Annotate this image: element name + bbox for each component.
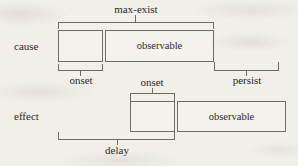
bracket-max-exist	[58, 22, 214, 29]
row-label-cause: cause	[14, 40, 38, 52]
cause-effect-timeline-diagram: max-exist cause observable onset persist…	[0, 0, 298, 166]
bar-effect-observable-label: observable	[178, 111, 285, 123]
bracket-persist	[214, 62, 279, 71]
bar-cause-observable-label: observable	[106, 40, 213, 52]
bracket-effect-onset	[130, 93, 175, 101]
bracket-label-cause-onset: onset	[50, 74, 112, 86]
bar-effect-observable[interactable]: observable	[177, 101, 286, 132]
bar-cause-observable[interactable]: observable	[105, 30, 214, 62]
bracket-label-effect-onset: onset	[122, 76, 182, 88]
bar-cause-onset[interactable]	[58, 30, 103, 62]
row-label-effect: effect	[14, 110, 39, 122]
bracket-label-persist: persist	[215, 74, 279, 86]
bracket-delay	[58, 132, 175, 140]
bracket-label-max-exist: max-exist	[58, 3, 214, 15]
bracket-cause-onset	[58, 64, 103, 71]
bracket-label-delay: delay	[87, 144, 147, 156]
bar-effect-onset[interactable]	[130, 101, 175, 132]
